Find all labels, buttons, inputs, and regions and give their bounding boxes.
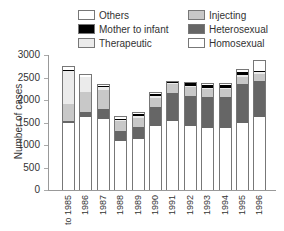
bar-segment-homosexual [236,123,249,190]
x-tick-label: 1990 [150,195,160,229]
legend-item-heterosexual: Heterosexual [188,23,268,35]
bar-segment-injecting [79,92,92,111]
bar-segment-homosexual [201,128,214,190]
x-tick-label: to 1985 [63,195,73,229]
bar-stack [201,83,214,190]
legend-label: Injecting [209,10,246,21]
bar-stack [184,82,197,190]
bar-segment-others [253,60,266,71]
bar-stack [149,92,162,190]
legend-swatch [78,10,95,20]
legend-label: Therapeutic [99,38,152,49]
legend-swatch [188,38,205,48]
bar-stack [97,84,110,190]
legend-swatch [78,24,95,34]
bar-segment-therapeutic [62,71,75,104]
bar-segment-injecting [201,89,214,97]
bar-stack [62,66,75,190]
bar-segment-heterosexual [149,107,162,126]
bar-segment-heterosexual [236,84,249,123]
bar-segment-injecting [219,89,232,97]
bar-segment-heterosexual [97,109,110,119]
bar-segment-homosexual [166,121,179,190]
bar-segment-heterosexual [219,97,232,127]
legend-item-therapeutic: Therapeutic [78,37,152,49]
legend-label: Homosexual [209,38,265,49]
bar-stack [166,81,179,190]
x-tick-label: 1991 [167,195,177,229]
x-tick-label: 1992 [185,195,195,229]
y-tick-label: 500 [23,163,40,173]
bar-segment-homosexual [62,123,75,190]
y-tick-label: 0 [34,185,40,195]
x-tick-label: 1994 [220,195,230,229]
y-axis-line [48,55,49,190]
bar-stack [253,60,266,190]
bar-segment-homosexual [114,141,127,191]
x-tick-label: 1993 [202,195,212,229]
legend-swatch [78,38,95,48]
bar-stack [132,112,145,190]
bar-segment-heterosexual [114,131,127,140]
legend-item-homosexual: Homosexual [188,37,265,49]
y-tick-label: 3000 [18,50,40,60]
y-tick-label: 2000 [18,95,40,105]
bar-segment-injecting [166,84,179,93]
bar-segment-injecting [184,87,197,96]
legend-label: Mother to infant [99,24,168,35]
legend-item-mother-to-infant: Mother to infant [78,23,168,35]
bar-stack [219,83,232,190]
y-tick-label: 2500 [18,73,40,83]
bar-segment-injecting [97,90,110,109]
y-tick-label: 1500 [18,118,40,128]
bar-segment-injecting [236,77,249,85]
x-tick-label: 1995 [237,195,247,229]
y-tick-label: 1000 [18,140,40,150]
bar-segment-heterosexual [184,96,197,127]
x-tick-label: 1988 [115,195,125,229]
x-tick-label: 1989 [133,195,143,229]
legend-item-others: Others [78,9,129,21]
bar-segment-injecting [114,121,127,131]
bar-segment-injecting [132,118,145,127]
legend-label: Others [99,10,129,21]
x-tick-label: 1987 [98,195,108,229]
bar-segment-heterosexual [201,97,214,127]
bar-segment-homosexual [253,117,266,190]
bar-segment-homosexual [219,128,232,190]
bar-segment-therapeutic [79,77,92,92]
bar-stack [236,69,249,190]
legend-label: Heterosexual [209,24,268,35]
bar-segment-homosexual [79,117,92,190]
bar-segment-homosexual [132,139,145,190]
legend-swatch [188,10,205,20]
bar-segment-heterosexual [132,127,145,139]
bar-segment-injecting [149,98,162,107]
bar-segment-injecting [62,104,75,121]
x-tick-label: 1986 [80,195,90,229]
bar-segment-homosexual [149,126,162,190]
legend-swatch [188,24,205,34]
bar-segment-homosexual [184,126,197,190]
bar-stack [114,116,127,190]
legend-item-injecting: Injecting [188,9,246,21]
bar-segment-homosexual [97,119,110,190]
x-tick-label: 1996 [254,195,264,229]
x-axis-line [48,190,276,191]
bar-segment-heterosexual [166,93,179,120]
bar-stack [79,74,92,190]
bar-segment-injecting [253,74,266,81]
bar-segment-heterosexual [253,81,266,117]
